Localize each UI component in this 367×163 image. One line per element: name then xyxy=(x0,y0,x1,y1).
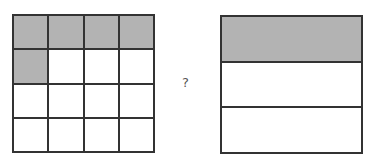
unshaded-cell xyxy=(84,49,119,83)
unshaded-cell xyxy=(119,118,154,152)
left-fraction-grid xyxy=(12,14,155,153)
unshaded-cell xyxy=(48,49,83,83)
right-fraction-bars xyxy=(220,15,363,154)
unshaded-bar xyxy=(221,107,362,153)
unshaded-bar xyxy=(221,62,362,108)
unshaded-cell xyxy=(48,118,83,152)
unshaded-cell xyxy=(13,118,48,152)
comparison-question-mark: ? xyxy=(182,75,189,90)
shaded-cell xyxy=(119,15,154,49)
shaded-bar xyxy=(221,16,362,62)
unshaded-cell xyxy=(119,84,154,118)
shaded-cell xyxy=(13,15,48,49)
unshaded-cell xyxy=(84,118,119,152)
shaded-cell xyxy=(48,15,83,49)
unshaded-cell xyxy=(48,84,83,118)
unshaded-cell xyxy=(119,49,154,83)
unshaded-cell xyxy=(13,84,48,118)
unshaded-cell xyxy=(84,84,119,118)
shaded-cell xyxy=(84,15,119,49)
shaded-cell xyxy=(13,49,48,83)
